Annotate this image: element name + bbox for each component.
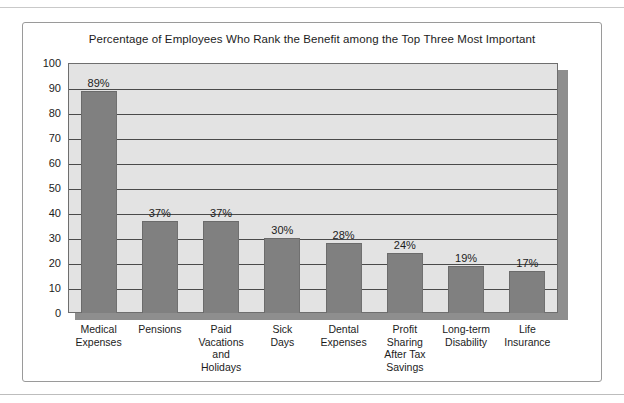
x-axis-category-label-line: Insurance <box>497 336 558 349</box>
y-axis-tick-label: 40 <box>21 207 61 219</box>
y-axis-tick-label: 90 <box>21 82 61 94</box>
x-axis-category-label-line: Sick <box>252 323 313 336</box>
bar-slot: 28% <box>313 63 374 313</box>
bar-value-label: 37% <box>210 207 232 219</box>
y-axis-tick-label: 10 <box>21 282 61 294</box>
x-axis-category-label-line: Pensions <box>129 323 190 336</box>
x-axis-category-label: ProfitSharingAfter TaxSavings <box>374 323 435 373</box>
y-axis-tick-label: 80 <box>21 107 61 119</box>
plot-3d-right-wall <box>558 70 568 320</box>
x-axis-category-label-line: Life <box>497 323 558 336</box>
x-axis-category-labels: MedicalExpensesPensionsPaidVacationsandH… <box>68 323 558 373</box>
x-axis-category-label-line: Savings <box>374 361 435 374</box>
bar[interactable] <box>387 253 423 313</box>
x-axis-category-label-line: and <box>191 348 252 361</box>
bar-slot: 37% <box>191 63 252 313</box>
x-axis-category-label-line: Profit <box>374 323 435 336</box>
bar-slot: 24% <box>374 63 435 313</box>
y-axis-tick-label: 60 <box>21 157 61 169</box>
x-axis-category-label-line: Days <box>252 336 313 349</box>
y-axis-tick-label: 30 <box>21 232 61 244</box>
bar-slot: 17% <box>497 63 558 313</box>
bar-slot: 19% <box>436 63 497 313</box>
x-axis-category-label: MedicalExpenses <box>68 323 129 373</box>
x-axis-category-label-line: Holidays <box>191 361 252 374</box>
x-axis-category-label: PaidVacationsandHolidays <box>191 323 252 373</box>
bar-value-label: 19% <box>455 252 477 264</box>
bar[interactable] <box>142 221 178 314</box>
y-axis-tick-label: 0 <box>21 307 61 319</box>
bar-slot: 37% <box>129 63 190 313</box>
page-rule-bottom <box>0 394 624 395</box>
bar-slot: 89% <box>68 63 129 313</box>
bar-value-label: 17% <box>516 257 538 269</box>
bar-value-label: 37% <box>149 207 171 219</box>
page-rule-top <box>0 7 624 8</box>
x-axis-category-label-line: Paid <box>191 323 252 336</box>
bar[interactable] <box>81 91 117 314</box>
y-axis-tick-label: 20 <box>21 257 61 269</box>
x-axis-category-label: DentalExpenses <box>313 323 374 373</box>
bar-slot: 30% <box>252 63 313 313</box>
y-axis-tick-label: 100 <box>21 57 61 69</box>
y-axis-tick-label: 70 <box>21 132 61 144</box>
x-axis-category-label-line: Dental <box>313 323 374 336</box>
x-axis-category-label-line: Long-term <box>436 323 497 336</box>
bar-value-label: 30% <box>271 224 293 236</box>
x-axis-category-label: Pensions <box>129 323 190 373</box>
y-axis-tick-label: 50 <box>21 182 61 194</box>
x-axis-category-label: LifeInsurance <box>497 323 558 373</box>
bar[interactable] <box>448 266 484 314</box>
x-axis-category-label-line: Vacations <box>191 336 252 349</box>
x-axis-category-label-line: Sharing <box>374 336 435 349</box>
plot-3d-floor <box>75 313 568 320</box>
x-axis-category-label: SickDays <box>252 323 313 373</box>
x-axis-category-label-line: Expenses <box>68 336 129 349</box>
bar[interactable] <box>509 271 545 314</box>
x-axis-category-label-line: Expenses <box>313 336 374 349</box>
bar-series: 89%37%37%30%28%24%19%17% <box>68 63 558 313</box>
x-axis-category-label-line: Disability <box>436 336 497 349</box>
bar-value-label: 28% <box>333 229 355 241</box>
bar-value-label: 24% <box>394 239 416 251</box>
x-axis-category-label-line: Medical <box>68 323 129 336</box>
bar[interactable] <box>264 238 300 313</box>
x-axis-category-label-line: After Tax <box>374 348 435 361</box>
bar[interactable] <box>326 243 362 313</box>
bar[interactable] <box>203 221 239 314</box>
x-axis-category-label: Long-termDisability <box>436 323 497 373</box>
chart-figure-frame: Percentage of Employees Who Rank the Ben… <box>22 22 602 382</box>
bar-value-label: 89% <box>88 77 110 89</box>
plot-wrapper: 1009080706050403020100 89%37%37%30%28%24… <box>23 23 601 381</box>
